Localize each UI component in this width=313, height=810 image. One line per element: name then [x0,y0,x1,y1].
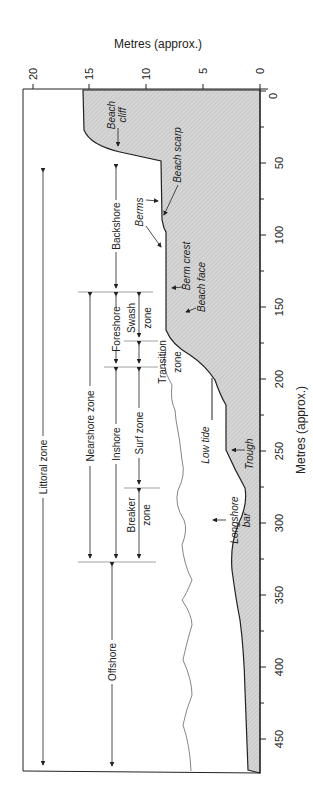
longshore-bar-label-1: Longshore [229,496,240,544]
swash-zone-label-1: Swash [126,303,137,333]
beach-cliff-label-1: Beach [106,100,117,129]
water-surface-line [164,350,192,771]
beach-scarp-label: Beach scarp [172,127,183,183]
low-tide-label: Low tide [200,426,211,464]
berms-pointer-1 [146,200,158,201]
height-tick-20: 20 [27,68,39,80]
height-tick-0: 0 [254,68,266,74]
beach-cliff-label-2: cliff [117,106,128,122]
distance-tick-0: 0 [267,93,279,99]
breaker-zone-label-1: Breaker [126,497,137,533]
swash-zone-label-2: zone [142,307,153,329]
distance-tick-450: 450 [273,730,285,748]
distance-tick-300: 300 [273,514,285,532]
distance-tick-100: 100 [273,226,285,244]
height-axis: 20 15 10 5 0 [23,68,268,89]
distance-tick-50: 50 [273,157,285,169]
backshore-label: Backshore [111,202,122,250]
surf-zone-label: Surf zone [134,411,145,454]
berms-label: Berms [134,198,145,227]
transition-zone-label-1: Transition [157,340,168,384]
height-axis-title: Metres (approx.) [114,37,202,51]
littoral-zone-label: Littoral zone [38,439,49,494]
beach-face-label: Beach face [196,262,207,312]
distance-axis-title: Metres (approx.) [294,386,308,474]
berms-pointer-2 [146,226,161,247]
offshore-label: Offshore [107,642,118,681]
coastal-profile-diagram: Metres (approx.) 20 15 10 5 0 [0,0,313,810]
distance-tick-150: 150 [273,298,285,316]
distance-tick-250: 250 [273,442,285,460]
breaker-zone-label-2: zone [141,504,152,526]
height-tick-5: 5 [197,68,209,74]
foreshore-label: Foreshore [111,306,122,352]
nearshore-zone-label: Nearshore zone [85,390,96,462]
distance-tick-400: 400 [273,658,285,676]
distance-axis: 0 50 100 150 200 250 300 350 400 450 [260,91,285,748]
height-tick-15: 15 [83,68,95,80]
berm-crest-label: Berm crest [181,241,192,291]
transition-zone-label-2: zone [172,351,183,373]
bottom-border [23,771,260,773]
inshore-label: Inshore [111,427,122,461]
height-tick-10: 10 [140,68,152,80]
distance-tick-350: 350 [273,586,285,604]
longshore-bar-label-2: bar [241,512,252,527]
distance-tick-200: 200 [273,370,285,388]
trough-label: Trough [244,438,255,469]
